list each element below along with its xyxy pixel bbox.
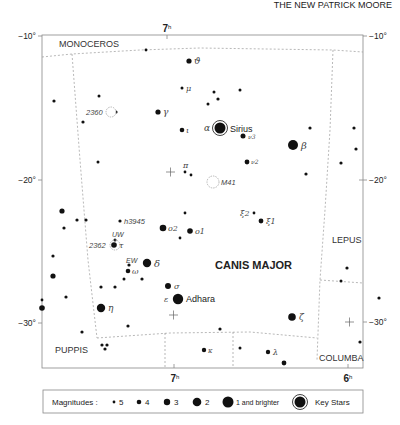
ra-label-bottom-6h: 6h bbox=[344, 373, 353, 384]
star-icon bbox=[282, 361, 287, 366]
star-icon bbox=[59, 208, 64, 213]
constellation-columba: COLUMBA bbox=[319, 353, 364, 363]
star-icon bbox=[64, 295, 67, 298]
star-icon bbox=[103, 347, 106, 350]
star-icon bbox=[41, 299, 44, 302]
star-icon bbox=[215, 123, 226, 134]
star-icon bbox=[190, 174, 193, 177]
constellation-boundaries bbox=[42, 48, 363, 368]
star-icon bbox=[304, 172, 307, 175]
label-ngc2360: 2360 bbox=[85, 108, 104, 117]
constellation-lepus: LEPUS bbox=[332, 235, 362, 245]
label-m41: M41 bbox=[221, 178, 236, 187]
star-icon bbox=[358, 340, 361, 343]
grid-cross-icon bbox=[345, 318, 354, 327]
star-icon bbox=[288, 313, 296, 321]
svg-text:3: 3 bbox=[174, 398, 179, 407]
star-icon bbox=[239, 89, 242, 92]
star-icon bbox=[51, 254, 54, 257]
label-ngc2362: 2362 bbox=[88, 241, 107, 250]
dec-label-left-30: −30° bbox=[18, 318, 36, 328]
label-eta: η bbox=[108, 303, 114, 313]
label-adhara: Adhara bbox=[186, 294, 215, 304]
chart-frame bbox=[42, 35, 363, 368]
star-icon bbox=[377, 296, 380, 299]
star-icon bbox=[126, 324, 129, 327]
constellation-puppis: PUPPIS bbox=[55, 345, 88, 355]
star-icon bbox=[245, 160, 250, 165]
label-beta: β bbox=[300, 140, 307, 151]
dec-label-right-10: −10° bbox=[369, 31, 387, 41]
label-o1: o1 bbox=[195, 227, 205, 236]
star-icon bbox=[113, 285, 116, 288]
star-icon bbox=[202, 348, 206, 352]
star-icon bbox=[81, 120, 84, 123]
star-icon bbox=[180, 128, 185, 133]
star-icon bbox=[62, 226, 65, 229]
star-icon bbox=[123, 278, 126, 281]
legend-mag3-icon bbox=[164, 399, 170, 405]
legend-title: Magnitudes : bbox=[52, 398, 98, 407]
label-xi1: ξ1 bbox=[266, 217, 276, 226]
ra-label-top: 7h bbox=[163, 23, 172, 34]
constellation-canis-major: CANIS MAJOR bbox=[215, 259, 292, 271]
label-ew: EW bbox=[126, 257, 139, 264]
dec-label-right-20: −20° bbox=[369, 175, 387, 185]
star-icon bbox=[352, 126, 355, 129]
star-icon bbox=[143, 259, 151, 267]
star-icon bbox=[179, 237, 182, 240]
label-o2: o2 bbox=[168, 224, 178, 233]
star-icon bbox=[213, 91, 216, 94]
star-icon bbox=[118, 219, 121, 222]
legend-mag5-icon bbox=[113, 401, 116, 404]
star-icon bbox=[98, 95, 101, 98]
star-icon bbox=[181, 87, 184, 90]
dec-label-left-10: −10° bbox=[18, 31, 36, 41]
star-icon bbox=[75, 218, 78, 221]
star-icon bbox=[207, 103, 210, 106]
star-icon bbox=[99, 285, 102, 288]
label-xi2: ξ2 bbox=[240, 209, 250, 218]
label-pi: π bbox=[182, 161, 189, 170]
star-icon bbox=[345, 266, 348, 269]
ra-label-bottom-7h: 7h bbox=[171, 373, 180, 384]
cluster-m41-icon bbox=[207, 176, 219, 188]
label-alpha: α bbox=[204, 123, 210, 133]
stars-layer bbox=[39, 49, 380, 366]
star-icon bbox=[253, 212, 256, 215]
svg-text:4: 4 bbox=[145, 398, 150, 407]
star-icon bbox=[140, 277, 143, 280]
label-zeta: ζ bbox=[299, 312, 305, 322]
star-icon bbox=[145, 49, 148, 52]
star-icon bbox=[111, 242, 117, 248]
dec-label-left-20: −20° bbox=[18, 175, 36, 185]
star-icon bbox=[308, 126, 311, 129]
label-theta: ϑ bbox=[194, 56, 201, 66]
legend-key-star-icon bbox=[295, 397, 306, 408]
grid-cross-icon bbox=[169, 311, 178, 320]
label-tau: τ bbox=[119, 241, 124, 250]
star-icon bbox=[97, 161, 100, 164]
star-icon bbox=[288, 140, 298, 150]
star-icon bbox=[39, 305, 45, 311]
star-chart-canis-major: THE NEW PATRICK MOORE 7h 7h 6h −10° −20°… bbox=[0, 0, 400, 425]
star-icon bbox=[50, 273, 55, 278]
label-sigma: σ bbox=[174, 282, 180, 291]
star-icon bbox=[239, 347, 242, 350]
legend-mag2-icon bbox=[193, 398, 202, 407]
star-icon bbox=[165, 283, 171, 289]
svg-text:2: 2 bbox=[205, 398, 210, 407]
svg-text:Key Stars: Key Stars bbox=[315, 398, 350, 407]
star-icon bbox=[52, 99, 55, 102]
star-icon bbox=[105, 343, 108, 346]
legend-mag4-icon bbox=[137, 400, 142, 405]
star-icon bbox=[266, 350, 270, 354]
label-uw: UW bbox=[112, 231, 125, 238]
label-kappa: κ bbox=[207, 347, 213, 355]
dec-label-right-30: −30° bbox=[369, 317, 387, 327]
label-nu2: ν2 bbox=[251, 158, 259, 165]
star-icon bbox=[339, 161, 342, 164]
star-icon bbox=[340, 280, 343, 283]
star-labels: ϑ μ γ ι α Sirius ν3 ν2 β π M41 ξ2 ξ1 o2 … bbox=[85, 56, 307, 357]
label-delta: δ bbox=[154, 258, 160, 269]
